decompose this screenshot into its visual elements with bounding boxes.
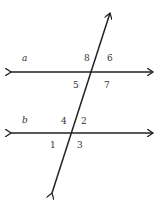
angle-7: 7 — [104, 81, 110, 90]
diagram-canvas: a 8 6 5 7 b 4 2 1 3 — [0, 0, 163, 209]
label-line-a: a — [22, 54, 27, 63]
transversal — [52, 13, 110, 193]
angle-4: 4 — [61, 117, 67, 126]
angle-3: 3 — [77, 141, 83, 150]
angle-2: 2 — [81, 117, 87, 126]
angle-8: 8 — [84, 54, 90, 63]
label-line-b: b — [22, 116, 28, 125]
angle-6: 6 — [107, 54, 113, 63]
angle-1: 1 — [50, 141, 56, 150]
angle-5: 5 — [73, 81, 79, 90]
lines-svg — [0, 0, 163, 209]
